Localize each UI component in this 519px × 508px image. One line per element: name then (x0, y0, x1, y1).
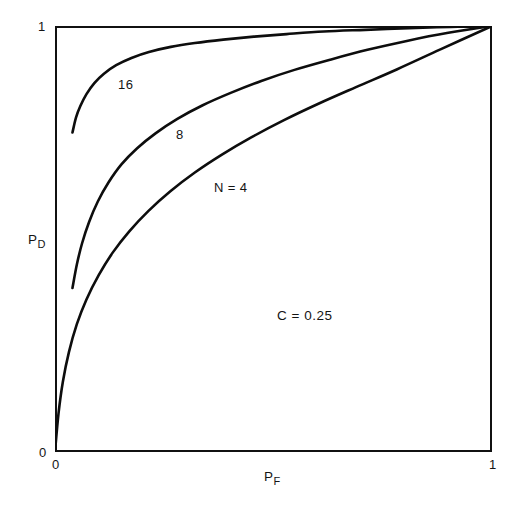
curve-label-n8: 8 (176, 128, 184, 141)
x-axis-tick-right: 1 (489, 458, 496, 471)
x-axis-title-subscript: F (274, 475, 281, 487)
curve-n8 (72, 26, 492, 288)
curve-n16 (72, 26, 492, 133)
curve-label-n4: N = 4 (214, 181, 247, 194)
y-axis-title-base: P (28, 232, 37, 247)
y-axis-title: PD (28, 233, 45, 247)
y-axis-tick-top: 1 (38, 20, 45, 33)
x-axis-title-base: P (264, 469, 273, 484)
y-axis-title-subscript: D (38, 238, 46, 250)
x-axis-tick-left: 0 (52, 458, 59, 471)
roc-curve-figure: 1 0 0 1 PD PF 16 8 N = 4 C = 0.25 (0, 0, 519, 508)
curve-label-n16: 16 (118, 78, 133, 91)
y-axis-tick-bottom: 0 (39, 446, 46, 459)
x-axis-title: PF (264, 470, 280, 484)
annotation-parameter-c: C = 0.25 (277, 309, 332, 323)
